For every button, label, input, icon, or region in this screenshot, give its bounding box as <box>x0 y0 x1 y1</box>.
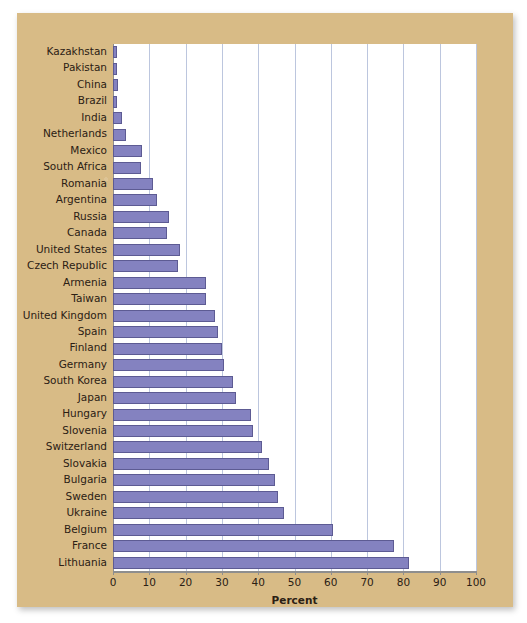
bar-row: Hungary <box>113 406 476 422</box>
bar-row: Finland <box>113 340 476 356</box>
x-tick-mark-100 <box>476 571 477 575</box>
category-label: Taiwan <box>71 290 107 306</box>
category-label: Romania <box>61 175 107 191</box>
category-label: Argentina <box>56 191 107 207</box>
bar <box>113 326 218 338</box>
category-label: Canada <box>67 224 107 240</box>
category-label: South Korea <box>43 372 107 388</box>
bar-row: Kazakhstan <box>113 44 476 60</box>
x-tick-label-40: 40 <box>252 576 265 588</box>
bar-row: Netherlands <box>113 126 476 142</box>
bar <box>113 524 333 536</box>
bar-row: India <box>113 110 476 126</box>
x-tick-label-10: 10 <box>143 576 156 588</box>
category-label: Pakistan <box>63 59 107 75</box>
x-tick-label-100: 100 <box>466 576 486 588</box>
bar-row: Bulgaria <box>113 472 476 488</box>
bar-row: Mexico <box>113 143 476 159</box>
bar <box>113 310 215 322</box>
category-label: Hungary <box>62 405 107 421</box>
bar-row: Lithuania <box>113 555 476 571</box>
bar <box>113 425 253 437</box>
x-tick-label-30: 30 <box>215 576 228 588</box>
bar <box>113 392 236 404</box>
x-tick-label-60: 60 <box>324 576 337 588</box>
bar-row: Taiwan <box>113 291 476 307</box>
bar-row: Switzerland <box>113 439 476 455</box>
bar-row: United Kingdom <box>113 308 476 324</box>
x-tick-mark-30 <box>222 571 223 575</box>
bar <box>113 491 278 503</box>
bar-row: South Africa <box>113 159 476 175</box>
plot-area: KazakhstanPakistanChinaBrazilIndiaNether… <box>113 44 476 571</box>
bar <box>113 359 224 371</box>
x-tick-label-70: 70 <box>360 576 373 588</box>
x-tick-mark-50 <box>295 571 296 575</box>
x-tick-mark-10 <box>149 571 150 575</box>
bar-row: France <box>113 538 476 554</box>
bar <box>113 260 178 272</box>
bar <box>113 507 284 519</box>
gridline-100 <box>476 44 477 571</box>
category-label: Finland <box>69 339 107 355</box>
bar <box>113 63 117 75</box>
bar <box>113 211 169 223</box>
bar <box>113 129 126 141</box>
bar-row: Sweden <box>113 489 476 505</box>
category-label: Germany <box>59 356 107 372</box>
bar <box>113 343 222 355</box>
x-tick-mark-70 <box>367 571 368 575</box>
bar-row: Canada <box>113 225 476 241</box>
x-tick-mark-90 <box>440 571 441 575</box>
category-label: China <box>77 76 107 92</box>
bar-row: United States <box>113 242 476 258</box>
bar <box>113 227 167 239</box>
category-label: Netherlands <box>43 125 107 141</box>
category-label: Slovakia <box>63 455 107 471</box>
bar <box>113 46 117 58</box>
category-label: Mexico <box>70 142 107 158</box>
category-label: Russia <box>73 208 107 224</box>
category-label: Armenia <box>63 274 107 290</box>
category-label: Switzerland <box>46 438 107 454</box>
bar <box>113 277 206 289</box>
x-tick-label-20: 20 <box>179 576 192 588</box>
bar-row: Ukraine <box>113 505 476 521</box>
category-label: Bulgaria <box>63 471 107 487</box>
category-label: Ukraine <box>66 504 107 520</box>
bar-row: Slovakia <box>113 456 476 472</box>
bar-row: South Korea <box>113 373 476 389</box>
bar-row: Belgium <box>113 522 476 538</box>
bar-row: Czech Republic <box>113 258 476 274</box>
category-label: United Kingdom <box>23 307 107 323</box>
bar-row: Slovenia <box>113 423 476 439</box>
category-label: United States <box>36 241 107 257</box>
bar <box>113 96 117 108</box>
x-tick-label-90: 90 <box>433 576 446 588</box>
x-tick-mark-20 <box>186 571 187 575</box>
x-axis-title: Percent <box>113 594 476 606</box>
bar-row: China <box>113 77 476 93</box>
figure: KazakhstanPakistanChinaBrazilIndiaNether… <box>0 0 527 623</box>
x-tick-mark-60 <box>331 571 332 575</box>
bar <box>113 145 142 157</box>
category-label: Czech Republic <box>27 257 107 273</box>
category-label: Belgium <box>64 521 107 537</box>
x-tick-label-50: 50 <box>288 576 301 588</box>
x-tick-mark-0 <box>113 571 114 575</box>
category-label: Japan <box>78 389 107 405</box>
category-label: Lithuania <box>58 554 107 570</box>
bar-row: Germany <box>113 357 476 373</box>
category-label: Slovenia <box>62 422 107 438</box>
category-label: Sweden <box>66 488 108 504</box>
x-tick-label-80: 80 <box>397 576 410 588</box>
bar <box>113 194 157 206</box>
category-label: India <box>81 109 107 125</box>
bar-row: Japan <box>113 390 476 406</box>
bar <box>113 474 275 486</box>
bar <box>113 244 180 256</box>
bar <box>113 458 269 470</box>
x-tick-mark-80 <box>403 571 404 575</box>
bar <box>113 441 262 453</box>
bar-row: Spain <box>113 324 476 340</box>
